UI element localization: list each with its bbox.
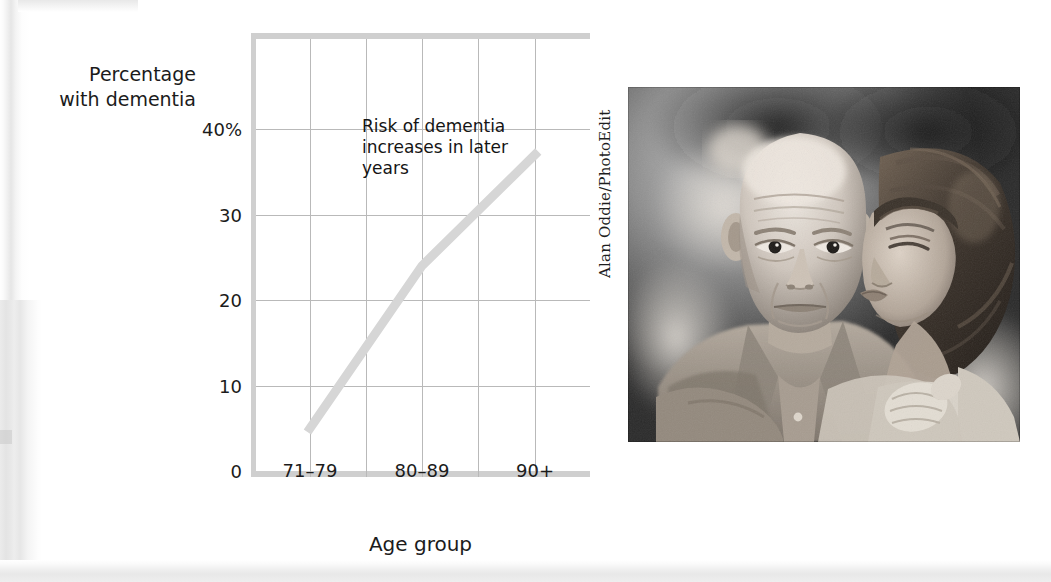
- chart-annotation-line-1: Risk of dementia: [362, 116, 527, 137]
- scanned-textbook-page: Percentage with dementia 010203040% 71–7…: [0, 0, 1051, 582]
- y-axis-title-line-1: Percentage: [20, 62, 196, 87]
- plot-area: 010203040%: [251, 33, 590, 477]
- x-axis-tick-label: 90+: [516, 460, 554, 481]
- chart-annotation-line-3: years: [362, 158, 527, 179]
- chart-annotation-line-2: increases in later: [362, 137, 527, 158]
- dementia-line-chart: Percentage with dementia 010203040% 71–7…: [0, 0, 620, 582]
- y-axis-tick-label: 10: [219, 375, 242, 396]
- y-axis-tick-label: 20: [219, 290, 242, 311]
- data-line-series: [251, 33, 590, 477]
- x-axis-title: Age group: [251, 532, 590, 556]
- y-axis-title: Percentage with dementia: [20, 62, 196, 112]
- photo-image: [628, 87, 1020, 442]
- y-axis-tick-label: 0: [231, 461, 242, 482]
- x-axis-tick-label: 80–89: [395, 460, 450, 481]
- photo-credit: Alan Oddie/PhotoEdit: [596, 110, 614, 278]
- y-axis-tick-label: 40%: [202, 119, 242, 140]
- x-axis-tick-label: 71–79: [283, 460, 338, 481]
- y-axis-tick-label: 30: [219, 204, 242, 225]
- photograph: [628, 87, 1020, 442]
- y-axis-title-line-2: with dementia: [20, 87, 196, 112]
- chart-annotation: Risk of dementia increases in later year…: [362, 116, 527, 179]
